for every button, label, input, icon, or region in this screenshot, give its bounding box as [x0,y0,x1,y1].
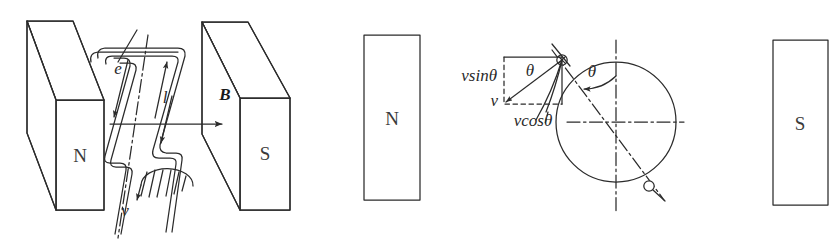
magnet-block-south-3d [202,22,290,210]
physics-figure: N S N [0,0,838,243]
coil-label-e: e [114,59,122,78]
figure-canvas: N S N [0,0,838,243]
conductor-marker-in-tail [653,190,665,201]
vcos-theta-label: vcosθ [514,111,553,130]
magnet-north-label-left: N [73,145,87,166]
magnet-block-north-3d [27,21,104,210]
magnet-south-label-right: S [795,113,806,134]
coil-length-label-l: l [163,88,168,107]
axle-rotation-indicator [137,169,193,200]
theta-label-left: θ [526,61,534,80]
rotating-coil [91,48,185,234]
velocity-label-v-left: v [121,201,129,220]
theta-label-right: θ [588,62,596,81]
magnet-north-label-right: N [385,108,399,129]
magnet-south-label-left: S [260,143,271,164]
v-label-right: v [490,91,498,110]
field-label-B: B [218,85,230,104]
coil-leader-line [118,30,137,62]
vsin-theta-label: vsinθ [461,66,497,85]
